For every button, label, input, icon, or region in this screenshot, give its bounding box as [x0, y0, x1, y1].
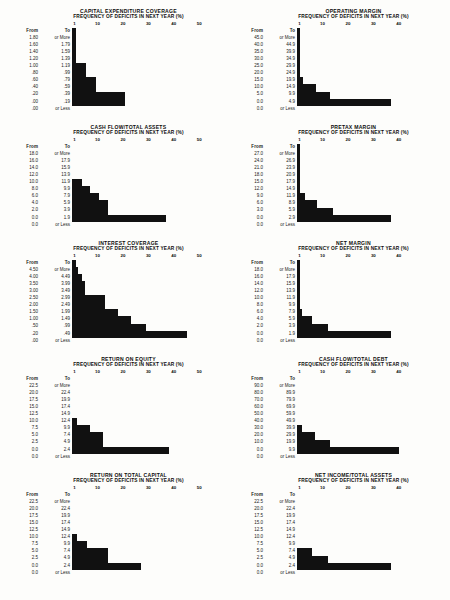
cell-to: 1.19: [42, 62, 70, 69]
cell-to: 9.9: [267, 90, 295, 97]
plot-area: 11020304050: [72, 253, 212, 345]
axis-tick-label: 1: [73, 369, 75, 374]
table-row: 2.54.9: [12, 554, 70, 561]
table-row: 18.020.9: [237, 171, 295, 178]
axis-tick-label: 40: [171, 253, 176, 258]
cell-from: 14.0: [12, 164, 38, 171]
chart-header: OPERATING MARGINFREQUENCY OF DEFICITS IN…: [225, 8, 450, 21]
cell-from: 7.5: [12, 540, 38, 547]
bar: [72, 541, 87, 548]
x-axis: 110203040: [297, 21, 437, 28]
plot-area: 110203040: [297, 253, 437, 345]
bar: [72, 193, 99, 200]
cell-to: or More: [42, 34, 70, 41]
cell-to: 1.49: [42, 315, 70, 322]
axis-tick-label: 50: [197, 21, 202, 26]
table-row: 10.012.4: [237, 533, 295, 540]
axis-tick-label: 1: [73, 485, 75, 490]
bar: [297, 165, 300, 172]
cell-to: 14.9: [267, 526, 295, 533]
cell-to: 34.9: [267, 55, 295, 62]
chart-panel-pretax-margin: PRETAX MARGINFREQUENCY OF DEFICITS IN NE…: [225, 124, 450, 240]
x-axis: 11020304050: [72, 369, 212, 376]
bar: [297, 281, 300, 288]
cell-from: 0.0: [12, 562, 38, 569]
cell-from: .20: [12, 330, 38, 337]
table-row: .00or Less: [12, 337, 70, 344]
table-header-row: FromTo: [12, 143, 70, 150]
cell-to: 7.9: [42, 192, 70, 199]
cell-from: 4.0: [237, 315, 263, 322]
table-row: 4.05.9: [12, 199, 70, 206]
cell-to: .79: [42, 76, 70, 83]
table-header-row: FromTo: [12, 491, 70, 498]
bar-series: [297, 492, 437, 577]
range-table: FromTo4.50or More4.004.493.503.993.003.4…: [12, 259, 70, 344]
cell-from: 40.0: [237, 417, 263, 424]
x-axis: 11020304050: [72, 137, 212, 144]
column-header-to: To: [42, 27, 70, 34]
bar: [72, 28, 76, 35]
cell-from: 6.0: [237, 199, 263, 206]
chart-header: RETURN ON EQUITYFREQUENCY OF DEFICITS IN…: [0, 356, 225, 369]
cell-from: 14.0: [237, 280, 263, 287]
cell-to: or Less: [42, 569, 70, 576]
chart-panel-net-margin: NET MARGINFREQUENCY OF DEFICITS IN NEXT …: [225, 240, 450, 356]
cell-to: 11.9: [42, 178, 70, 185]
cell-from: 12.5: [237, 526, 263, 533]
axis-tick-label: 30: [371, 253, 376, 258]
axis-tick-label: 1: [298, 21, 300, 26]
cell-from: 60.0: [237, 403, 263, 410]
table-row: 15.017.9: [237, 178, 295, 185]
table-row: 7.59.9: [237, 540, 295, 547]
cell-to: 5.9: [267, 315, 295, 322]
table-row: 40.044.9: [237, 41, 295, 48]
cell-to: 11.9: [267, 294, 295, 301]
chart-header: NET INCOME/TOTAL ASSETSFREQUENCY OF DEFI…: [225, 472, 450, 485]
cell-to: 17.9: [267, 273, 295, 280]
axis-tick-label: 10: [320, 137, 325, 142]
cell-from: 12.0: [237, 185, 263, 192]
table-row: 7.59.9: [12, 424, 70, 431]
table-row: 70.079.9: [237, 396, 295, 403]
table-row: 27.0or More: [237, 150, 295, 157]
cell-to: 17.9: [42, 157, 70, 164]
axis-tick-label: 50: [197, 369, 202, 374]
table-row: 0.02.4: [12, 562, 70, 569]
table-row: 80.089.9: [237, 389, 295, 396]
cell-to: 13.9: [42, 171, 70, 178]
axis-tick-label: 10: [95, 485, 100, 490]
table-row: 2.03.9: [237, 322, 295, 329]
table-row: .20.39: [12, 90, 70, 97]
cell-from: 0.0: [12, 221, 38, 228]
bar-series: [72, 376, 212, 461]
bar-series: [72, 144, 212, 229]
axis-tick-label: 10: [95, 369, 100, 374]
cell-to: 2.49: [42, 301, 70, 308]
chart-header: INTEREST COVERAGEFREQUENCY OF DEFICITS I…: [0, 240, 225, 253]
bar: [297, 288, 300, 295]
cell-to: 9.9: [267, 301, 295, 308]
cell-from: 80.0: [237, 389, 263, 396]
cell-from: 16.0: [237, 273, 263, 280]
axis-tick-label: 40: [171, 369, 176, 374]
cell-to: 13.9: [267, 287, 295, 294]
chart-panel-cash-flow-total-assets: CASH FLOW/TOTAL ASSETSFREQUENCY OF DEFIC…: [0, 124, 225, 240]
cell-from: 8.0: [237, 301, 263, 308]
axis-tick-label: 40: [396, 485, 401, 490]
cell-from: 30.0: [237, 424, 263, 431]
table-row: 8.09.9: [237, 301, 295, 308]
bar: [297, 440, 330, 447]
cell-from: 7.5: [12, 424, 38, 431]
cell-from: 2.0: [12, 206, 38, 213]
cell-to: 44.9: [267, 41, 295, 48]
cell-from: 22.5: [12, 498, 38, 505]
table-row: 17.519.9: [237, 512, 295, 519]
cell-from: 30.0: [237, 55, 263, 62]
plot-area: 110203040: [297, 21, 437, 113]
cell-from: 12.0: [237, 287, 263, 294]
cell-to: 69.9: [267, 403, 295, 410]
table-row: 1.80or More: [12, 34, 70, 41]
cell-from: 22.5: [12, 382, 38, 389]
chart-body: FromTo1.80or More1.601.791.401.591.201.3…: [0, 21, 225, 117]
